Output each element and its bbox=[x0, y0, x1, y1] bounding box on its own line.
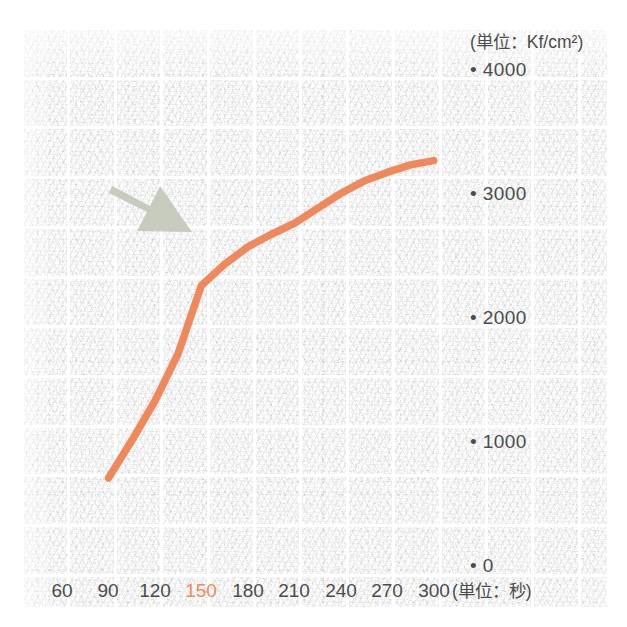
x-tick-240: 240 bbox=[325, 578, 357, 604]
y-tick-marker: • bbox=[470, 59, 477, 80]
y-tick-label: 3000 bbox=[483, 183, 527, 204]
x-tick-210: 210 bbox=[278, 578, 310, 604]
x-axis-unit-label: (単位：秒) bbox=[452, 578, 532, 604]
y-tick-0: • 0 bbox=[470, 556, 494, 575]
x-axis: 60 90 120 150 180 210 240 270 300 (単位：秒) bbox=[0, 578, 627, 604]
x-tick-90: 90 bbox=[97, 578, 118, 604]
chart-figure: (単位：Kf/cm²) • 4000 • 3000 • 2000 • 1000 … bbox=[0, 0, 627, 627]
x-tick-180: 180 bbox=[232, 578, 264, 604]
x-tick-120: 120 bbox=[139, 578, 171, 604]
x-tick-150-highlighted: 150 bbox=[185, 578, 217, 604]
y-tick-1000: • 1000 bbox=[470, 432, 527, 451]
y-tick-4000: • 4000 bbox=[470, 60, 527, 79]
y-tick-marker: • bbox=[470, 307, 477, 328]
y-tick-2000: • 2000 bbox=[470, 308, 527, 327]
y-tick-marker: • bbox=[470, 431, 477, 452]
inflection-arrow-icon bbox=[109, 186, 192, 232]
x-tick-270: 270 bbox=[371, 578, 403, 604]
y-axis-unit-label: (単位：Kf/cm²) bbox=[470, 34, 583, 52]
y-tick-label: 2000 bbox=[483, 307, 527, 328]
y-tick-3000: • 3000 bbox=[470, 184, 527, 203]
x-tick-60: 60 bbox=[51, 578, 72, 604]
y-tick-marker: • bbox=[470, 555, 477, 576]
y-tick-label: 1000 bbox=[483, 431, 527, 452]
y-tick-marker: • bbox=[470, 183, 477, 204]
y-tick-label: 0 bbox=[483, 555, 494, 576]
x-tick-300: 300 bbox=[418, 578, 450, 604]
plot-area bbox=[0, 0, 627, 627]
y-tick-label: 4000 bbox=[483, 59, 527, 80]
